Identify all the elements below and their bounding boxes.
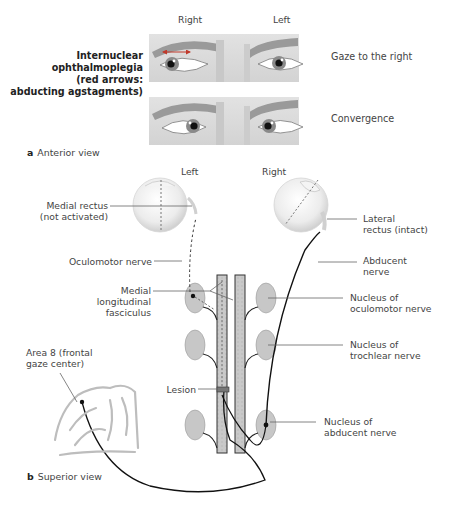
label-lateral-rectus: Lateral rectus (intact)	[363, 213, 428, 235]
label-medial-rectus-line-2: (not activated)	[40, 211, 108, 222]
brain-cortex-sketch	[55, 386, 138, 455]
label-nucleus-abducent-line-2: abducent nerve	[324, 427, 397, 438]
abducent-nerve-path	[266, 232, 320, 425]
label-nucleus-trochlear: Nucleus of trochlear nerve	[350, 339, 421, 361]
label-abducent-nerve-line-2: nerve	[363, 266, 407, 277]
label-oculomotor-nerve: Oculomotor nerve	[69, 256, 152, 267]
label-abducent-nerve: Abducent nerve	[363, 255, 407, 277]
label-nucleus-oculomotor: Nucleus of oculomotor nerve	[350, 292, 432, 314]
label-area8-line-2: gaze center)	[26, 358, 92, 369]
caption-a: aAnterior view	[27, 147, 100, 158]
label-nucleus-abducent-line-1: Nucleus of	[324, 416, 397, 427]
label-mlf-line-1: Medial	[97, 285, 151, 296]
label-mlf-line-3: fasciculus	[97, 307, 151, 318]
label-medial-rectus: Medial rectus (not activated)	[40, 200, 108, 222]
nuclei	[185, 283, 276, 440]
label-medial-rectus-line-1: Medial rectus	[40, 200, 108, 211]
eye-row-gaze-right	[149, 34, 303, 82]
label-area8-line-1: Area 8 (frontal	[26, 347, 92, 358]
row-label-gaze-right: Gaze to the right	[331, 51, 412, 62]
caption-b-text: Superior view	[38, 471, 102, 482]
left-eyeball	[133, 178, 196, 232]
label-mlf-line-2: longitudinal	[97, 296, 151, 307]
caption-b-letter: b	[27, 471, 34, 482]
label-nucleus-trochlear-line-2: trochlear nerve	[350, 350, 421, 361]
label-nucleus-abducent: Nucleus of abducent nerve	[324, 416, 397, 438]
ino-title-line-3: (red arrows:	[10, 74, 143, 86]
ino-title-line-1: Internuclear	[10, 50, 143, 62]
label-lateral-rectus-line-1: Lateral	[363, 213, 428, 224]
nucleus-connectors	[203, 307, 258, 448]
label-abducent-nerve-line-1: Abducent	[363, 255, 407, 266]
ino-title: Internuclear ophthalmoplegia (red arrows…	[10, 50, 143, 98]
label-nucleus-oculomotor-line-1: Nucleus of	[350, 292, 432, 303]
eye-label-left: Left	[181, 166, 198, 177]
mlf-columns	[217, 275, 245, 453]
eye-row-convergence	[149, 97, 303, 145]
label-nucleus-trochlear-line-1: Nucleus of	[350, 339, 421, 350]
caption-a-text: Anterior view	[37, 147, 99, 158]
label-area8: Area 8 (frontal gaze center)	[26, 347, 92, 369]
row-label-convergence: Convergence	[331, 113, 394, 124]
column-label-right: Right	[178, 14, 202, 25]
oculomotor-nerve-path	[190, 218, 196, 292]
label-lateral-rectus-line-2: rectus (intact)	[363, 224, 428, 235]
caption-a-letter: a	[27, 147, 33, 158]
label-mlf: Medial longitudinal fasciculus	[97, 285, 151, 318]
label-nucleus-oculomotor-line-2: oculomotor nerve	[350, 303, 432, 314]
label-lesion: Lesion	[167, 384, 196, 395]
caption-b: bSuperior view	[27, 471, 102, 482]
right-eyeball	[274, 178, 328, 232]
ino-title-line-2: ophthalmoplegia	[10, 62, 143, 74]
column-label-left: Left	[273, 14, 290, 25]
lesion-marker	[217, 387, 229, 392]
eye-label-right: Right	[262, 166, 286, 177]
ino-title-line-4: abducting agstagments)	[10, 86, 143, 98]
